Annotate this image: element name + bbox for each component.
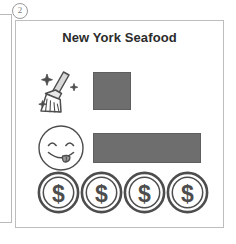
dollar-coin-icon: $ [37,171,80,214]
restaurant-card[interactable]: New York Seafood [15,20,224,228]
item-number-badge: 2 [12,3,28,19]
dollar-coin-icon: $ [123,171,166,214]
rating-row-taste [36,124,218,172]
svg-text:$: $ [138,180,151,206]
page-title: New York Seafood [16,30,223,45]
svg-text:$: $ [181,180,194,206]
rating-row-price: $ $ $ $ [37,169,219,215]
svg-text:$: $ [95,180,108,206]
broom-sparkle-icon [36,68,88,118]
svg-text:$: $ [52,180,65,206]
dollar-coin-icon: $ [80,171,123,214]
rating-row-cleanliness [36,69,218,117]
rating-bar-cleanliness [93,72,131,110]
rating-bar-taste [93,133,201,163]
dollar-coin-icon: $ [166,171,209,214]
yum-face-icon [37,124,85,172]
outer-frame [0,14,12,223]
